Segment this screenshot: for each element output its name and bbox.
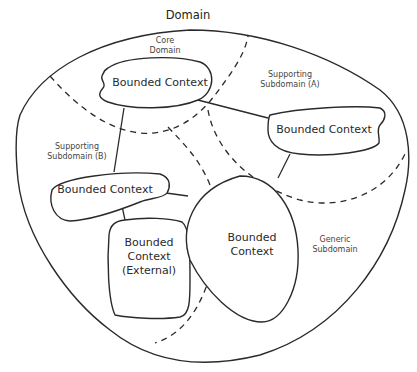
supporting-subdomain-a-label-line2: Subdomain (A): [255, 80, 325, 90]
supporting-subdomain-b-label-line2: Subdomain (B): [42, 152, 112, 162]
domain-title: Domain: [158, 8, 218, 22]
connection-supporting-b-to-generic: [166, 193, 188, 196]
bounded-context-supporting-b-shape[interactable]: [51, 173, 169, 221]
core-domain-label-line1: Core: [135, 36, 195, 46]
supporting-subdomain-b-label: Supporting Subdomain (B): [42, 142, 112, 162]
connection-core-to-supporting-b: [114, 108, 124, 172]
generic-subdomain-label-line2: Subdomain: [305, 245, 365, 255]
bounded-context-external-label-line1: Bounded: [110, 236, 188, 250]
bounded-context-external-label-line3: (External): [110, 264, 188, 278]
bounded-context-core-label: Bounded Context: [112, 76, 208, 90]
supporting-subdomain-b-label-line1: Supporting: [42, 142, 112, 152]
bounded-context-supporting-a-label: Bounded Context: [274, 123, 374, 137]
bounded-context-generic-label-line1: Bounded: [222, 231, 282, 245]
connection-core-to-supporting-a: [190, 98, 268, 118]
bounded-context-generic-label-line2: Context: [222, 245, 282, 259]
bounded-context-supporting-b-label: Bounded Context: [55, 183, 155, 197]
supporting-subdomain-a-label-line1: Supporting: [255, 70, 325, 80]
core-domain-label: Core Domain: [135, 36, 195, 56]
bounded-context-external-label: Bounded Context (External): [110, 236, 188, 277]
generic-subdomain-label: Generic Subdomain: [305, 235, 365, 255]
supporting-subdomain-a-label: Supporting Subdomain (A): [255, 70, 325, 90]
bounded-context-generic-label: Bounded Context: [222, 231, 282, 259]
connection-supporting-a-to-generic: [278, 154, 290, 178]
core-domain-label-line2: Domain: [135, 46, 195, 56]
bounded-context-external-label-line2: Context: [110, 250, 188, 264]
generic-subdomain-label-line1: Generic: [305, 235, 365, 245]
